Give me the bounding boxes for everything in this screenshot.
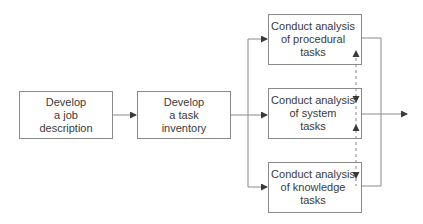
node-label-line: Develop <box>39 96 92 109</box>
node-label-line: of system <box>271 107 355 120</box>
node-procedural-analysis: Conduct analysis of procedural tasks <box>268 14 362 65</box>
node-label-line: Conduct analysis <box>271 20 355 33</box>
node-label-line: inventory <box>162 122 207 135</box>
node-label-line: Develop <box>162 96 207 109</box>
node-job-description: Develop a job description <box>19 91 113 139</box>
node-label-line: description <box>39 122 92 135</box>
node-label-line: tasks <box>271 194 355 207</box>
node-label-line: of knowledge <box>271 181 355 194</box>
node-knowledge-analysis: Conduct analysis of knowledge tasks <box>268 162 362 213</box>
node-label-line: tasks <box>271 46 355 59</box>
node-label-line: a job <box>39 109 92 122</box>
node-system-analysis: Conduct analysis of system tasks <box>268 88 362 139</box>
node-label-line: Conduct analysis <box>271 94 355 107</box>
node-label-line: Conduct analysis <box>271 168 355 181</box>
node-label-line: of procedural <box>271 33 355 46</box>
node-task-inventory: Develop a task inventory <box>137 91 231 139</box>
node-label-line: a task <box>162 109 207 122</box>
node-label-line: tasks <box>271 120 355 133</box>
